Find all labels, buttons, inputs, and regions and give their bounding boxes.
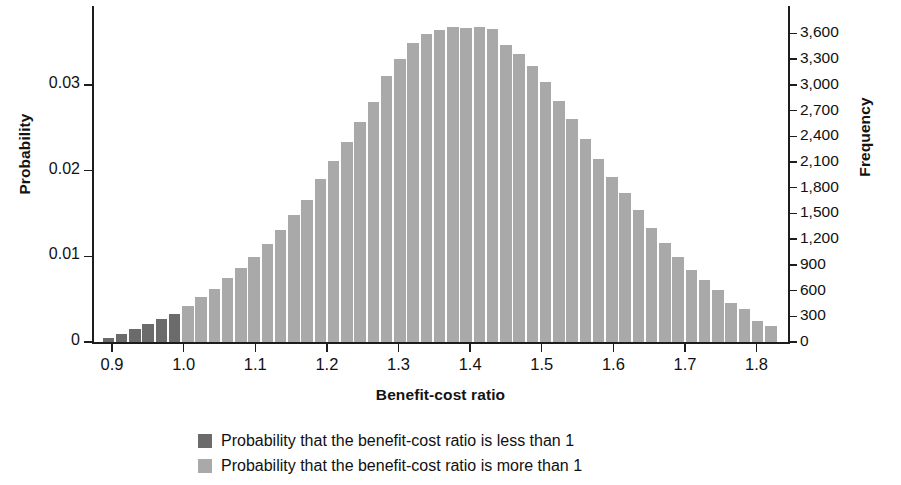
y-tick-label-right: 2,400 (800, 126, 870, 144)
y-tick-right (789, 290, 797, 292)
legend-label-above-threshold: Probability that the benefit-cost ratio … (221, 458, 582, 474)
histogram-bar (474, 27, 485, 342)
histogram-bar (103, 338, 114, 342)
histogram-bar (315, 179, 326, 342)
legend-item-below-threshold: Probability that the benefit-cost ratio … (198, 428, 718, 453)
x-tick-label: 1.7 (655, 355, 715, 374)
histogram-bar (633, 210, 644, 342)
legend-label-below-threshold: Probability that the benefit-cost ratio … (221, 433, 574, 449)
x-tick (684, 343, 686, 352)
histogram-bar (725, 303, 736, 342)
x-tick-label: 0.9 (82, 355, 142, 374)
histogram-bar (712, 290, 723, 342)
x-tick (255, 343, 257, 352)
histogram-bar (487, 29, 498, 342)
histogram-bar (328, 161, 339, 342)
histogram-bar (381, 76, 392, 342)
y-tick-right (789, 136, 797, 138)
histogram-bar (169, 314, 180, 342)
x-tick-label: 1.1 (225, 355, 285, 374)
x-tick (398, 343, 400, 352)
histogram-bar (209, 289, 220, 342)
y-tick-right (789, 58, 797, 60)
y-tick-label-left: 0.01 (0, 245, 80, 263)
chart-legend: Probability that the benefit-cost ratio … (198, 428, 718, 478)
y-tick-right (789, 110, 797, 112)
histogram-bar (222, 278, 233, 342)
histogram-bar (275, 230, 286, 342)
histogram-bar (394, 59, 405, 342)
histogram-bar (752, 321, 763, 342)
histogram-bar (619, 193, 630, 342)
y-tick-right (789, 213, 797, 215)
histogram-bar (354, 122, 365, 342)
x-tick (326, 343, 328, 352)
histogram-bar (368, 102, 379, 342)
y-tick-label-left: 0.02 (0, 160, 80, 178)
histogram-bar (434, 30, 445, 342)
y-tick-left (84, 341, 92, 343)
y-axis-title-left: Probability (16, 84, 34, 224)
x-tick (756, 343, 758, 352)
histogram-bar (540, 82, 551, 342)
histogram-bar (699, 280, 710, 342)
x-tick-label: 1.6 (583, 355, 643, 374)
histogram-bar (182, 306, 193, 342)
y-tick-label-right: 600 (800, 281, 870, 299)
y-tick-label-right: 900 (800, 255, 870, 273)
histogram-bar (195, 297, 206, 342)
y-tick-right (789, 161, 797, 163)
y-tick-label-right: 3,600 (800, 23, 870, 41)
y-tick-left (84, 256, 92, 258)
legend-item-above-threshold: Probability that the benefit-cost ratio … (198, 453, 718, 478)
histogram-bar (447, 27, 458, 342)
y-tick-label-left: 0 (0, 331, 80, 349)
y-tick-label-right: 300 (800, 306, 870, 324)
y-tick-label-right: 3,300 (800, 49, 870, 67)
histogram-bar (686, 270, 697, 342)
y-tick-left (84, 84, 92, 86)
histogram-bar (646, 228, 657, 342)
x-tick-label: 1.4 (440, 355, 500, 374)
y-tick-label-right: 1,200 (800, 229, 870, 247)
histogram-bar (672, 257, 683, 342)
x-tick (613, 343, 615, 352)
legend-swatch-below-threshold (198, 434, 212, 448)
y-tick-left (84, 170, 92, 172)
histogram-bar (142, 324, 153, 342)
histogram-bar (262, 244, 273, 342)
histogram-bar (500, 45, 511, 342)
y-tick-label-right: 1,500 (800, 203, 870, 221)
x-tick (183, 343, 185, 352)
y-tick-label-right: 2,100 (800, 152, 870, 170)
histogram-bar (659, 243, 670, 342)
histogram-bar (460, 28, 471, 342)
histogram-bar (248, 257, 259, 342)
y-tick-label-left: 0.03 (0, 74, 80, 92)
y-tick-label-right: 2,700 (800, 101, 870, 119)
histogram-bar (156, 319, 167, 342)
x-tick-label: 1.8 (727, 355, 787, 374)
x-tick-label: 1.2 (297, 355, 357, 374)
histogram-bar (116, 334, 127, 342)
histogram-bar (421, 34, 432, 342)
y-tick-right (789, 238, 797, 240)
histogram-bar (580, 139, 591, 342)
histogram-bar (301, 200, 312, 342)
x-tick (469, 343, 471, 352)
x-axis-title: Benefit-cost ratio (92, 386, 789, 404)
x-tick (111, 343, 113, 352)
y-tick-right (789, 84, 797, 86)
y-tick-right (789, 341, 797, 343)
x-tick (541, 343, 543, 352)
y-tick-right (789, 316, 797, 318)
histogram-bar (407, 43, 418, 342)
histogram-bar (593, 159, 604, 342)
histogram-bar (739, 309, 750, 342)
histogram-bar (288, 215, 299, 342)
histogram-bar (129, 329, 140, 342)
histogram-bar (527, 66, 538, 342)
histogram-bar (765, 326, 776, 342)
y-tick-right (789, 33, 797, 35)
histogram-bar (235, 268, 246, 342)
